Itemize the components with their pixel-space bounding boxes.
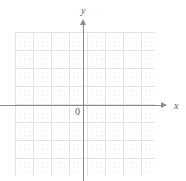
y-axis-line	[83, 22, 84, 181]
y-axis-arrow-icon	[80, 19, 86, 25]
y-axis-label: y	[81, 6, 85, 16]
graph-grid	[15, 32, 155, 176]
origin-label: 0	[75, 107, 80, 117]
grid-minor-lines	[15, 32, 155, 176]
grid-major-lines	[15, 32, 155, 176]
x-axis-line	[0, 105, 163, 106]
x-axis-label: x	[174, 101, 178, 111]
coordinate-plane-figure: x y 0	[0, 0, 186, 181]
x-axis-arrow-icon	[161, 102, 167, 108]
